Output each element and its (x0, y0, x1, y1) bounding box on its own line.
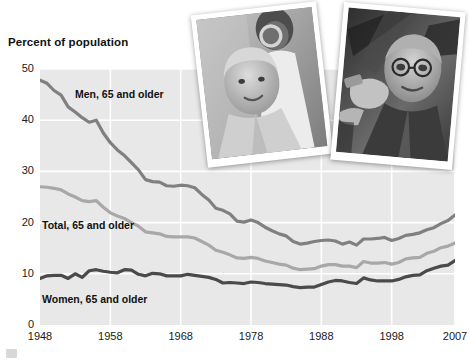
series-label-total: Total, 65 and older (42, 219, 134, 231)
x-axis-tick-label: 2007 (443, 330, 467, 342)
corner-mark (6, 349, 17, 358)
photo-older-man (330, 2, 465, 170)
y-axis-title: Percent of population (8, 36, 128, 48)
y-axis-tick-label: 0 (4, 318, 34, 330)
y-axis-tick-label: 30 (4, 164, 34, 176)
x-axis-tick-label: 1978 (239, 330, 263, 342)
y-axis-tick-label: 40 (4, 113, 34, 125)
photo-older-man-image (336, 7, 460, 161)
y-axis-tick-label: 10 (4, 267, 34, 279)
photo-older-woman (191, 1, 334, 167)
x-axis-tick-label: 1948 (28, 330, 52, 342)
y-axis-tick-label: 20 (4, 216, 34, 228)
photo-older-woman-image (196, 7, 327, 159)
chart-figure: Percent of population 01020304050 194819… (0, 0, 469, 362)
series-label-women: Women, 65 and older (42, 293, 147, 305)
x-axis-tick-label: 1988 (309, 330, 333, 342)
x-axis-tick-label: 1968 (168, 330, 192, 342)
x-axis-tick-label: 1998 (379, 330, 403, 342)
series-label-men: Men, 65 and older (75, 88, 164, 100)
y-axis-tick-label: 50 (4, 62, 34, 74)
x-axis-tick-label: 1958 (98, 330, 122, 342)
